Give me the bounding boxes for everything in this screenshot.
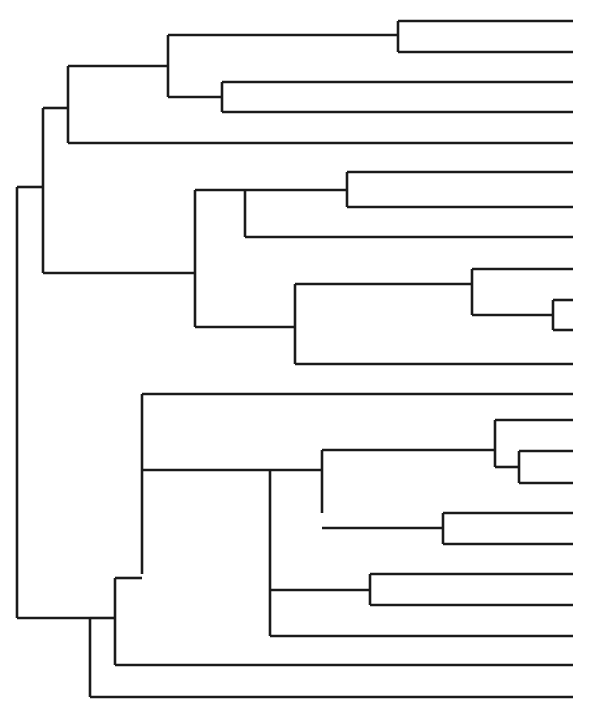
dendrogram-figure: Hierarchical clustering dendrogram: [0, 0, 596, 716]
dendrogram-canvas: [0, 0, 596, 716]
figure-background: [0, 0, 596, 716]
